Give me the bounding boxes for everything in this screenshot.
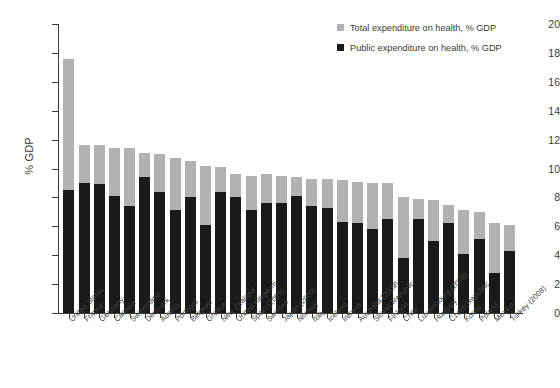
y-axis-title: % GDP: [23, 111, 35, 201]
legend-swatch-public-icon: [337, 44, 344, 51]
bar-segment-public[interactable]: [413, 219, 424, 313]
legend-item-public: Public expenditure on health, % GDP: [337, 40, 502, 55]
bar-segment-public[interactable]: [79, 183, 90, 313]
bar-segment-public[interactable]: [185, 197, 196, 313]
chart-legend: Total expenditure on health, % GDP Publi…: [337, 20, 502, 60]
legend-label-public: Public expenditure on health, % GDP: [350, 43, 502, 53]
health-expenditure-bar-chart: % GDP 02468101214161820 United StatesFra…: [0, 0, 560, 388]
legend-swatch-total-icon: [337, 24, 344, 31]
legend-label-total: Total expenditure on health, % GDP: [350, 23, 496, 33]
plot-area: [58, 24, 523, 313]
bar-segment-public[interactable]: [215, 192, 226, 313]
bar-segment-public[interactable]: [139, 177, 150, 313]
bar-segment-public[interactable]: [322, 208, 333, 313]
legend-item-total: Total expenditure on health, % GDP: [337, 20, 502, 35]
bar-segment-public[interactable]: [124, 206, 135, 313]
bar-segment-public[interactable]: [170, 210, 181, 313]
bar-segment-public[interactable]: [352, 223, 363, 313]
bar-segment-public[interactable]: [63, 190, 74, 313]
